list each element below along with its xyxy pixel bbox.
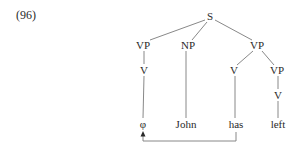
terminal-left: left: [271, 118, 286, 130]
tree-edges: [143, 20, 278, 118]
node-vp-inner: VP: [270, 64, 284, 76]
edge-s-vp1: [150, 20, 205, 40]
arrowhead-icon: [141, 131, 146, 137]
node-v-inner: V: [274, 89, 282, 101]
node-np: NP: [181, 39, 195, 51]
terminal-phi: φ: [140, 118, 146, 130]
edge-s-np: [192, 22, 207, 40]
node-vp-left: VP: [136, 39, 150, 51]
edge-vp2-v2: [237, 51, 253, 65]
node-v-left: V: [140, 64, 148, 76]
arrow-path: [143, 132, 236, 141]
edge-v1-phi: [143, 76, 144, 118]
edge-s-vp2: [215, 20, 252, 40]
node-s: S: [207, 10, 213, 22]
edge-vp2-vp3: [262, 51, 274, 65]
movement-arrow: [141, 131, 237, 141]
terminal-john: John: [176, 118, 197, 130]
terminal-has: has: [229, 118, 244, 130]
node-vp-right: VP: [250, 39, 264, 51]
syntax-tree: S VP NP VP V V VP V φ John has left: [0, 0, 301, 150]
node-v-mid: V: [230, 64, 238, 76]
tree-nodes: S VP NP VP V V VP V φ John has left: [136, 10, 285, 130]
